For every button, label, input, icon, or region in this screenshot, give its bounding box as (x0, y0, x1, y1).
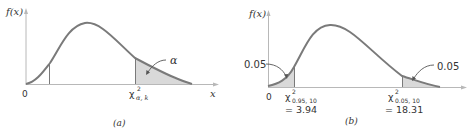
panel-b-label: (b) (345, 116, 358, 126)
upper-critical-value-label: χ 2 0.05, 10 = 18.31 (385, 88, 423, 115)
density-curve (26, 23, 192, 84)
svg-text:α, k: α, k (136, 94, 149, 102)
svg-text:= 3.94: = 3.94 (285, 104, 317, 115)
y-axis-label: f(x) (248, 8, 266, 19)
svg-text:2: 2 (395, 88, 399, 95)
svg-text:0.05, 10: 0.05, 10 (395, 97, 420, 104)
alpha-label: α (170, 54, 178, 67)
svg-text:= 18.31: = 18.31 (385, 104, 423, 115)
origin-label: 0 (266, 92, 272, 102)
x-axis-label: x (210, 88, 216, 99)
x-axis-arrow-icon (213, 83, 219, 87)
x-axis-arrow-icon (461, 86, 467, 90)
figure: α f(x) 0 x χ 2 α, k (a) 0.05 0.05 (0, 0, 471, 135)
origin-label: 0 (22, 89, 28, 99)
left-tail-area-label: 0.05 (244, 59, 266, 70)
right-tail-area-label: 0.05 (437, 61, 459, 72)
lower-critical-value-label: χ 2 0.95, 10 = 3.94 (285, 88, 317, 115)
critical-value-label: χ 2 α, k (129, 85, 149, 102)
y-axis-arrow-icon (267, 10, 271, 16)
svg-text:2: 2 (137, 85, 141, 92)
left-tail-shade (268, 67, 294, 87)
panel-a: α f(x) 0 x χ 2 α, k (a) (5, 6, 219, 128)
panel-b: 0.05 0.05 f(x) 0 χ 2 0.95, 10 = 3.94 χ 2… (244, 8, 467, 126)
panel-a-label: (a) (113, 118, 126, 128)
svg-text:χ: χ (285, 91, 291, 102)
svg-text:0.95, 10: 0.95, 10 (292, 97, 317, 104)
svg-text:2: 2 (292, 88, 296, 95)
y-axis-label: f(x) (5, 6, 23, 17)
right-tail-pointer-arrow (414, 65, 434, 78)
svg-text:χ: χ (388, 91, 394, 102)
y-axis-arrow-icon (24, 8, 28, 14)
svg-text:χ: χ (129, 88, 135, 99)
